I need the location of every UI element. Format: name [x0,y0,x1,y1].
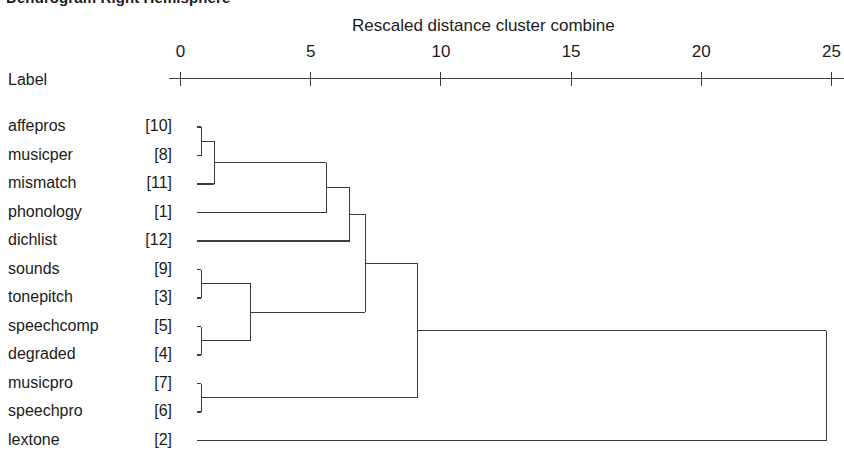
x-axis [169,72,844,86]
dendrogram-figure: Dendrogram Right Hemisphere Rescaled dis… [0,0,844,469]
dendrogram-plot [0,0,844,469]
dendrogram-tree [197,127,826,441]
